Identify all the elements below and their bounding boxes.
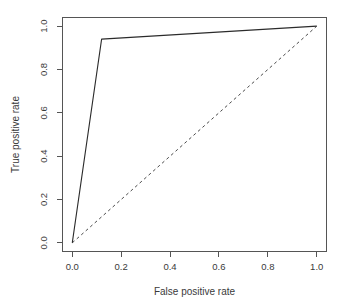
y-tick-label-0: 0.0 — [38, 236, 49, 249]
y-axis-title: True positive rate — [10, 96, 21, 173]
chance-diagonal-line — [72, 26, 316, 243]
x-tick-label-3: 0.6 — [212, 261, 225, 272]
y-axis-tick-labels: 0.0 0.2 0.4 0.6 0.8 1.0 — [38, 20, 49, 250]
x-tick-label-2: 0.4 — [163, 261, 176, 272]
y-tick-label-4: 0.8 — [38, 63, 49, 76]
roc-chart-svg: 0.0 0.2 0.4 0.6 0.8 1.0 0.0 0.2 0.4 0.6 … — [0, 0, 344, 307]
x-axis-title: False positive rate — [154, 286, 236, 297]
y-tick-label-5: 1.0 — [38, 20, 49, 33]
x-tick-label-4: 0.8 — [261, 261, 274, 272]
x-axis-ticks — [72, 252, 316, 258]
y-tick-label-3: 0.6 — [38, 106, 49, 119]
x-tick-label-1: 0.2 — [115, 261, 128, 272]
x-tick-label-0: 0.0 — [66, 261, 79, 272]
y-axis-ticks — [57, 26, 63, 243]
roc-plot-figure: 0.0 0.2 0.4 0.6 0.8 1.0 0.0 0.2 0.4 0.6 … — [0, 0, 344, 307]
y-tick-label-1: 0.2 — [38, 193, 49, 206]
x-tick-label-5: 1.0 — [310, 261, 323, 272]
x-axis-tick-labels: 0.0 0.2 0.4 0.6 0.8 1.0 — [66, 261, 324, 272]
y-tick-label-2: 0.4 — [38, 150, 49, 163]
